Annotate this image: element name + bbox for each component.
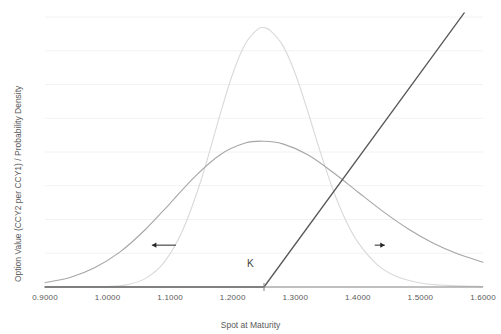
x-tick-label: 1.0000 <box>95 293 121 302</box>
x-tick-label: 1.6000 <box>470 293 496 302</box>
series-narrow-density <box>45 27 483 287</box>
series-wide-density <box>45 141 483 283</box>
x-tick-label: 0.9000 <box>32 293 58 302</box>
right-tail-arrow-head <box>380 243 385 248</box>
x-tick-label: 1.3000 <box>282 293 308 302</box>
y-axis-title: Option Value (CCY2 per CCY1) / Probabili… <box>13 86 23 282</box>
chart-plot-area <box>0 0 501 334</box>
x-tick-label: 1.4000 <box>345 293 371 302</box>
annotations-group <box>152 243 385 248</box>
x-tick-label: 1.1000 <box>157 293 183 302</box>
series-call-payoff <box>45 13 464 287</box>
left-tail-arrow-head <box>152 243 157 248</box>
strike-label-k: K <box>247 258 254 269</box>
gridlines-group <box>45 17 483 253</box>
x-axis-title: Spot at Maturity <box>0 320 501 330</box>
x-tick-label: 1.5000 <box>408 293 434 302</box>
chart-container: Option Value (CCY2 per CCY1) / Probabili… <box>0 0 501 334</box>
x-tick-label: 1.2000 <box>220 293 246 302</box>
